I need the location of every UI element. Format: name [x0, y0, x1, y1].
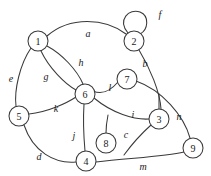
edge-label-k: k [54, 103, 59, 114]
edge-label-i: i [132, 109, 135, 120]
graph-node-8[interactable]: 8 [96, 133, 116, 153]
graph-node-3[interactable]: 3 [149, 109, 169, 129]
node-label-7: 7 [125, 74, 130, 85]
node-label-3: 3 [157, 114, 162, 125]
edge-label-n: n [177, 111, 182, 122]
graph-node-1[interactable]: 1 [28, 31, 48, 51]
graph-node-5[interactable]: 5 [9, 106, 29, 126]
edge-label-l: l [109, 82, 112, 93]
graph-edge-i[interactable] [94, 98, 149, 119]
graph-edge-e[interactable] [16, 48, 31, 106]
graph-node-6[interactable]: 6 [75, 84, 95, 104]
graph-edge-stub-s8 [106, 115, 108, 133]
node-label-8: 8 [104, 138, 109, 149]
graph-node-4[interactable]: 4 [76, 151, 96, 171]
graph-canvas: 123456789 abcdefghijklmn [0, 0, 211, 176]
graph-edge-d[interactable] [24, 125, 76, 162]
edge-label-f: f [159, 9, 163, 20]
node-label-6: 6 [83, 89, 88, 100]
node-label-5: 5 [17, 111, 22, 122]
node-label-2: 2 [132, 36, 137, 47]
node-label-1: 1 [36, 36, 41, 47]
graph-edge-k[interactable] [29, 97, 76, 114]
edge-label-c: c [124, 129, 129, 140]
graph-node-2[interactable]: 2 [124, 31, 144, 51]
graph-edge-j[interactable] [84, 104, 85, 151]
graph-figure: 123456789 abcdefghijklmn [0, 0, 211, 176]
graph-node-9[interactable]: 9 [183, 138, 203, 158]
graph-edge-l[interactable] [93, 82, 118, 93]
node-label-9: 9 [191, 143, 196, 154]
edge-label-b: b [143, 58, 148, 69]
edge-label-j: j [71, 130, 76, 141]
edge-label-a: a [86, 28, 91, 39]
edge-label-e: e [9, 73, 14, 84]
edge-label-m: m [139, 161, 146, 172]
graph-node-7[interactable]: 7 [117, 69, 137, 89]
edge-label-g: g [44, 71, 49, 82]
node-label-4: 4 [84, 156, 89, 167]
edge-label-h: h [79, 57, 84, 68]
